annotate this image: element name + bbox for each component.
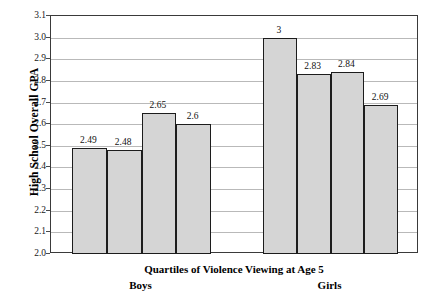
- bar-girls-q4: [364, 105, 398, 254]
- bar-boys-q1: [72, 148, 107, 254]
- y-tick-label-2-9: 2.9: [16, 53, 46, 63]
- bar-boys-q2: [107, 150, 142, 254]
- x-axis-title: Quartiles of Violence Viewing at Age 5: [50, 263, 418, 275]
- y-tick-label-3-0: 3.0: [16, 32, 46, 42]
- y-tick-mark: [46, 253, 50, 254]
- y-tick-label-2-8: 2.8: [16, 75, 46, 85]
- bar-value-label-boys-q4: 2.6: [165, 111, 220, 121]
- bar-value-label-girls-q1: 3: [252, 25, 306, 35]
- bar-boys-q3: [142, 113, 177, 254]
- y-tick-label-2-5: 2.5: [16, 140, 46, 150]
- bar-boys-q4: [176, 124, 211, 254]
- bar-chart-figure: High School Overall GPA 3.13.02.92.82.72…: [0, 0, 437, 305]
- group-label-boys: Boys: [91, 279, 191, 291]
- gridline: [51, 38, 417, 39]
- y-tick-label-2-3: 2.3: [16, 183, 46, 193]
- bar-value-label-boys-q3: 2.65: [131, 100, 186, 110]
- group-label-girls: Girls: [280, 279, 380, 291]
- bar-value-label-girls-q4: 2.69: [353, 92, 407, 102]
- y-tick-label-2-7: 2.7: [16, 97, 46, 107]
- y-axis-title: High School Overall GPA: [28, 42, 40, 222]
- y-tick-label-2-2: 2.2: [16, 205, 46, 215]
- bar-girls-q2: [297, 74, 331, 254]
- y-tick-label-2-6: 2.6: [16, 118, 46, 128]
- bar-value-label-boys-q2: 2.48: [96, 137, 151, 147]
- y-tick-label-2-0: 2.0: [16, 248, 46, 258]
- y-tick-label-2-1: 2.1: [16, 226, 46, 236]
- y-tick-label-3-1: 3.1: [16, 10, 46, 20]
- y-tick-label-2-4: 2.4: [16, 161, 46, 171]
- bar-value-label-girls-q3: 2.84: [320, 59, 374, 69]
